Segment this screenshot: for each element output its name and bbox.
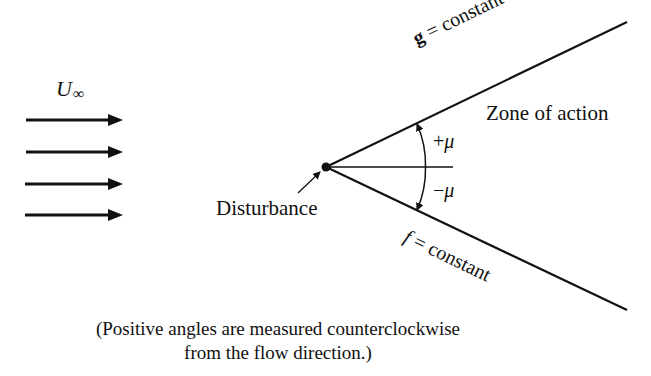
plus-mu-label: +μ xyxy=(433,131,454,151)
minus-mu-label: −μ xyxy=(433,180,454,200)
freestream-arrows xyxy=(25,114,123,221)
minus-sign: − xyxy=(433,179,444,201)
disturbance-label: Disturbance xyxy=(216,198,317,219)
zone-of-action-label: Zone of action xyxy=(486,103,608,124)
angle-arc-plus-mu xyxy=(417,124,426,167)
angle-arc-minus-mu xyxy=(417,167,426,210)
plus-sign: + xyxy=(433,130,444,152)
disturbance-point xyxy=(322,163,331,172)
velocity-symbol: U xyxy=(56,76,72,101)
arrow-head-3 xyxy=(108,178,123,190)
arrow-head-1 xyxy=(108,114,123,126)
caption-line-2: from the flow direction.) xyxy=(0,341,556,365)
arrow-head-2 xyxy=(108,146,123,158)
freestream-velocity-label: U∞ xyxy=(56,78,84,102)
mu-symbol: μ xyxy=(444,130,454,152)
disturbance-pointer-arrow xyxy=(298,172,320,193)
lower-mach-line xyxy=(326,167,627,310)
infinity-subscript: ∞ xyxy=(73,85,84,102)
mu-symbol: μ xyxy=(444,179,454,201)
arrow-head-4 xyxy=(108,209,123,221)
upper-mach-line xyxy=(326,22,627,167)
caption-line-1: (Positive angles are measured counterclo… xyxy=(0,317,556,341)
